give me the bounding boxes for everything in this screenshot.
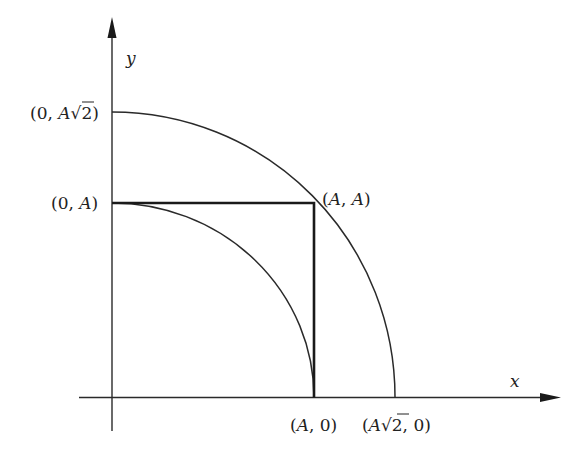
label-corner: (A, A) [322, 189, 371, 209]
label-y-outer: (0, A√2) [30, 102, 99, 123]
radicand: 2 [392, 415, 403, 435]
radicand: 2 [81, 103, 92, 123]
x-axis-label: x [510, 371, 520, 391]
inner-quarter-circle [112, 203, 314, 398]
square-corner-edges [112, 203, 314, 398]
y-axis-label: y [125, 48, 136, 68]
label-x-outer: (A√2, 0) [362, 414, 431, 435]
quarter-circle-diagram: y x (0, A√2) (0, A) (A, A) (A, 0) (A√2, … [0, 0, 586, 459]
label-y-inner: (0, A) [51, 193, 98, 213]
y-axis-arrowhead [108, 17, 117, 38]
svg-text:(0, A√2): (0, A√2) [30, 103, 99, 123]
x-axis-arrowhead [540, 393, 561, 402]
svg-text:(A√2, 0): (A√2, 0) [362, 415, 431, 435]
outer-quarter-circle [112, 112, 395, 398]
label-x-inner: (A, 0) [290, 415, 337, 435]
